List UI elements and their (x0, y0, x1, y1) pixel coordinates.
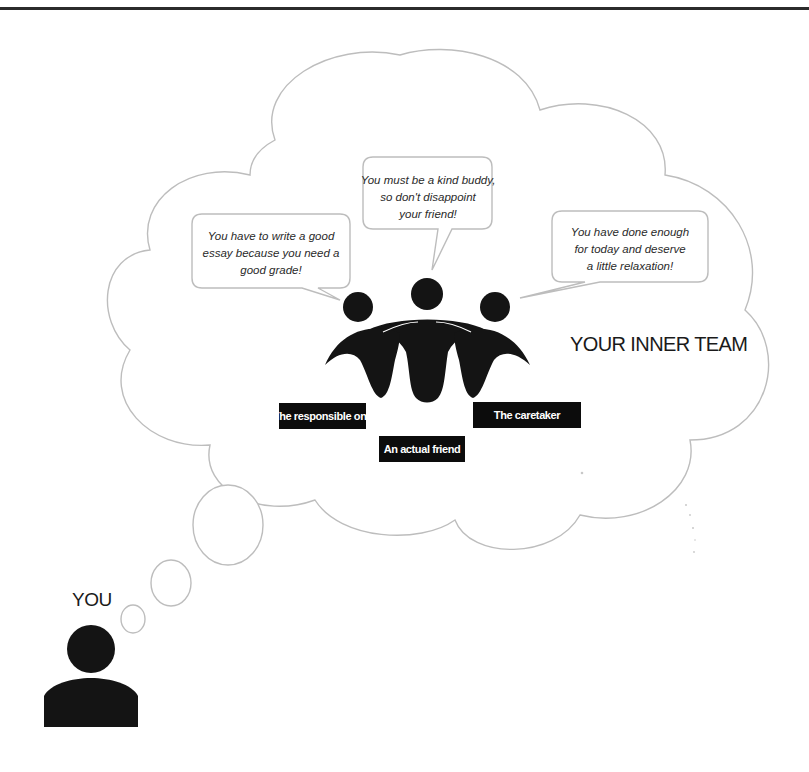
bubble-caretaker-line-2: for today and deserve (574, 243, 685, 255)
right-person-head (480, 292, 510, 322)
bubble-caretaker-line-1: You have done enough (571, 226, 689, 238)
you-person-body (44, 678, 138, 727)
inner-team-diagram: You have to write a good essay because y… (0, 0, 809, 772)
label-responsible-one-text: The responsible one (273, 410, 373, 422)
thought-trail-medium (151, 560, 191, 606)
bubble-friend-line-2: so don't disappoint (380, 191, 476, 203)
you-person-icon (44, 625, 138, 727)
label-caretaker: The caretaker (473, 402, 581, 428)
label-actual-friend: An actual friend (379, 436, 465, 462)
thought-trail-large (193, 485, 263, 565)
thought-trail-small (121, 605, 145, 633)
left-person-head (343, 292, 373, 322)
bubble-responsible-line-1: You have to write a good (208, 230, 335, 242)
inner-team-title: YOUR INNER TEAM (570, 333, 747, 355)
bubble-responsible-line-3: good grade! (240, 264, 302, 276)
label-actual-friend-text: An actual friend (384, 443, 461, 455)
bubble-responsible-line-2: essay because you need a (203, 247, 340, 259)
bubble-friend-line-1: You must be a kind buddy, (361, 174, 496, 186)
speech-bubble-responsible: You have to write a good essay because y… (192, 214, 350, 300)
bubble-friend-line-3: your friend! (398, 208, 457, 220)
you-label: YOU (72, 589, 112, 610)
label-caretaker-text: The caretaker (494, 409, 561, 421)
center-person-head (411, 278, 443, 310)
label-responsible-one: The responsible one (273, 403, 373, 429)
bubble-caretaker-line-3: a little relaxation! (587, 260, 674, 272)
you-person-head (67, 625, 115, 673)
